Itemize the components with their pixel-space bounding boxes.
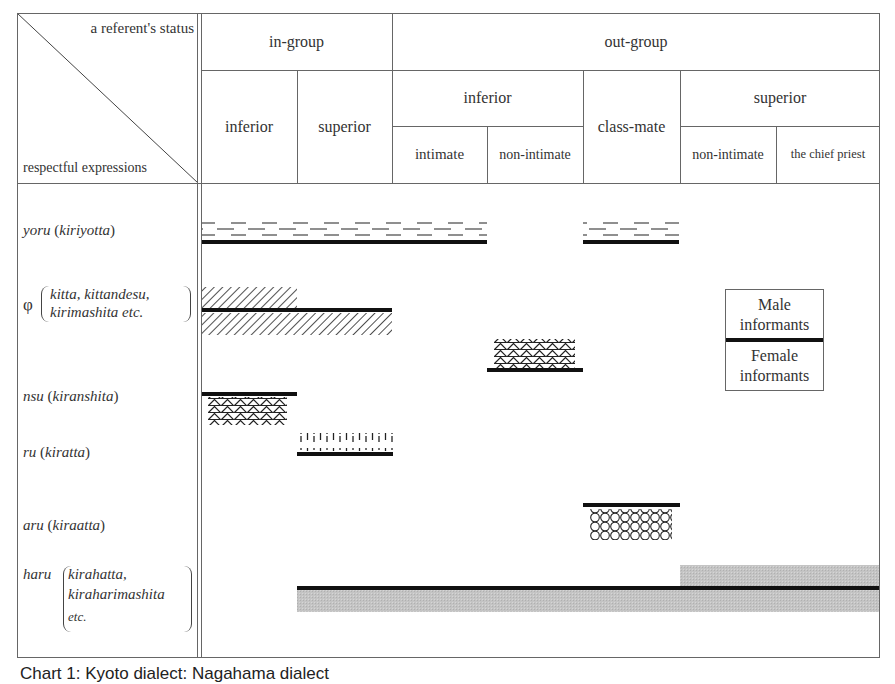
row-label-haru: haru <box>23 565 51 584</box>
legend-female-2: informants <box>726 367 823 385</box>
phi-paren-right <box>182 286 191 322</box>
corner-label-expressions: respectful expressions <box>23 160 147 176</box>
legend-divider <box>726 338 823 342</box>
legend-box: Male informants Female informants <box>725 289 824 391</box>
row-phi-line2: kirimashita etc. <box>50 303 143 322</box>
row-label-aru: aru (kiraatta) <box>23 516 105 535</box>
row-haru-line3: etc. <box>68 607 86 626</box>
header-in-inferior: inferior <box>201 70 297 183</box>
legend-female-1: Female <box>726 347 823 365</box>
header-out-inferior-nonintimate: non-intimate <box>487 126 583 183</box>
row-haru-line2: kiraharimashita <box>68 585 165 604</box>
header-in-superior: superior <box>297 70 392 183</box>
row-phi-main: φ <box>23 295 33 314</box>
figure-caption: Chart 1: Kyoto dialect: Nagahama dialect <box>20 664 329 684</box>
legend-male-1: Male <box>726 296 823 314</box>
header-out-inferior-intimate: intimate <box>392 126 487 183</box>
row-label-phi: φ <box>23 295 33 314</box>
header-classmate: class-mate <box>583 70 680 183</box>
header-out-inferior: inferior <box>392 70 583 126</box>
row-yoru-main: yoru <box>23 222 51 238</box>
row-ru-main: ru <box>23 444 36 460</box>
header-bottom-line <box>17 183 880 184</box>
row-aru-main: aru <box>23 517 44 533</box>
phi-paren-left <box>41 286 50 322</box>
header-in-group: in-group <box>201 13 392 70</box>
header-out-superior: superior <box>680 70 880 126</box>
header-chief-priest: the chief priest <box>776 126 880 183</box>
corner-label-status: a referent's status <box>60 20 194 37</box>
header-out-group: out-group <box>392 13 880 70</box>
legend-male-2: informants <box>726 316 823 334</box>
row-label-ru: ru (kiratta) <box>23 443 90 462</box>
row-phi-line1: kitta, kittandesu, <box>50 285 150 304</box>
haru-paren-right <box>183 566 192 632</box>
header-out-superior-nonintimate: non-intimate <box>680 126 776 183</box>
row-label-yoru: yoru ((kiriyotta)kiriyotta) <box>23 221 115 240</box>
row-nsu-main: nsu <box>23 388 44 404</box>
row-haru-line1: kirahatta, <box>68 565 127 584</box>
divider-double-1 <box>197 13 198 658</box>
row-label-nsu: nsu (kiranshita) <box>23 387 118 406</box>
